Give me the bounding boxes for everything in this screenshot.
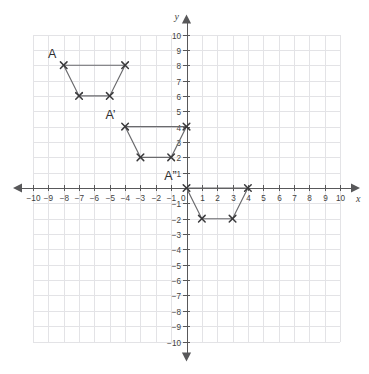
x-axis-tick-label: 3	[231, 194, 236, 203]
x-axis-tick-label: −4	[121, 194, 131, 203]
y-axis-arrow-up	[182, 15, 191, 24]
y-axis-tick-label: −8	[172, 308, 182, 317]
x-axis-tick-label: 8	[307, 194, 312, 203]
y-axis-tick-label: 8	[176, 62, 181, 71]
x-axis-tick-label: −10	[27, 194, 41, 203]
x-axis-tick-label: −9	[44, 194, 54, 203]
tick-label-layer: −10−9−8−7−6−5−4−3−2−10123456789101098765…	[27, 32, 346, 348]
y-axis-tick-label: −5	[172, 262, 182, 271]
x-axis-tick-label: 6	[277, 194, 282, 203]
shape-label-A-double-prime: A”	[164, 169, 177, 183]
y-axis-tick-label: −9	[172, 323, 182, 332]
shape-label-A: A	[48, 47, 57, 61]
x-axis-tick-label: 1	[200, 194, 205, 203]
y-axis-tick-label: −3	[172, 231, 182, 240]
y-axis-tick-label: −4	[172, 246, 182, 255]
x-axis-tick-label: −6	[90, 194, 100, 203]
y-axis-tick-label: 7	[176, 78, 181, 87]
x-axis-tick-label: 4	[246, 194, 251, 203]
x-axis-name: x	[355, 193, 361, 204]
x-axis-tick-label: −2	[152, 194, 162, 203]
y-axis-tick-label: 9	[176, 47, 181, 56]
x-axis-arrow-left	[13, 183, 22, 192]
y-axis-tick-label: −6	[172, 277, 182, 286]
y-axis-tick-label: 4	[176, 124, 181, 133]
x-axis-tick-label: 7	[292, 194, 297, 203]
y-axis-tick-label: −10	[167, 339, 181, 348]
shape-label-A-prime: A’	[105, 108, 115, 122]
y-axis-tick-label: −1	[172, 200, 182, 209]
graph-svg: −10−9−8−7−6−5−4−3−2−10123456789101098765…	[0, 0, 369, 374]
y-axis-tick-label: −7	[172, 292, 182, 301]
x-axis-tick-label: 10	[336, 194, 346, 203]
y-axis-tick-label: 10	[172, 32, 182, 41]
x-axis-arrow-right	[351, 183, 360, 192]
y-axis-tick-label: 2	[176, 154, 181, 163]
x-axis-tick-label: −3	[136, 194, 146, 203]
x-axis-tick-label: 9	[323, 194, 328, 203]
y-axis-tick-label: −2	[172, 216, 182, 225]
y-axis-tick-label: 1	[176, 170, 181, 179]
y-axis-tick-label: 5	[176, 108, 181, 117]
x-axis-tick-label: −8	[60, 194, 70, 203]
coordinate-plane-figure: −10−9−8−7−6−5−4−3−2−10123456789101098765…	[0, 0, 369, 374]
x-axis-tick-label: −7	[75, 194, 85, 203]
axis-name-layer: xy	[174, 11, 362, 205]
shape-labels-layer: AA’A”	[48, 47, 177, 183]
x-axis-tick-label: 2	[215, 194, 220, 203]
x-axis-tick-label: 5	[261, 194, 266, 203]
x-axis-tick-label: 0	[181, 194, 186, 203]
y-axis-arrow-down	[182, 353, 191, 362]
y-axis-tick-label: 6	[176, 93, 181, 102]
y-axis-name: y	[174, 11, 180, 22]
x-axis-tick-label: −5	[106, 194, 116, 203]
